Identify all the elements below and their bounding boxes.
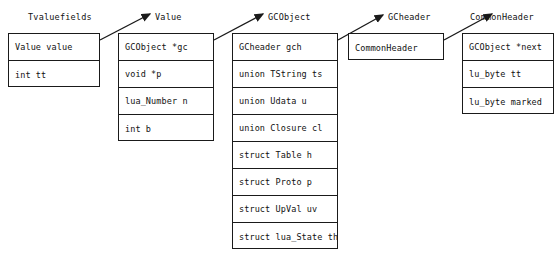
field-row: int b — [119, 115, 213, 142]
field-row: union Udata u — [233, 88, 337, 115]
struct-label-tvaluefields: Tvaluefields — [28, 12, 92, 22]
struct-label-commonheader: CommonHeader — [470, 12, 534, 22]
struct-label-gcheader: GCheader — [388, 12, 431, 22]
struct-label-gcobject: GCObject — [268, 12, 311, 22]
struct-box-tvaluefields: Value valueint tt — [8, 33, 100, 87]
struct-box-value: GCObject *gcvoid *plua_Number nint b — [118, 33, 214, 141]
field-row: void *p — [119, 61, 213, 88]
struct-box-commonheader: GCObject *nextlu_byte ttlu_byte marked — [462, 33, 554, 114]
field-row: GCheader gch — [233, 34, 337, 61]
field-row: union TString ts — [233, 61, 337, 88]
field-row: GCObject *next — [463, 34, 553, 61]
field-row: union Closure cl — [233, 115, 337, 142]
field-row: lua_Number n — [119, 88, 213, 115]
struct-box-gcobject: GCheader gchunion TString tsunion Udata … — [232, 33, 338, 249]
field-row: struct Table h — [233, 142, 337, 169]
field-row: lu_byte tt — [463, 61, 553, 88]
diagram-canvas: TvaluefieldsValue valueint ttValueGCObje… — [0, 0, 558, 260]
field-row: struct lua_State th — [233, 223, 337, 250]
field-row: lu_byte marked — [463, 88, 553, 115]
field-row: int tt — [9, 61, 99, 88]
field-row: struct Proto p — [233, 169, 337, 196]
field-row: struct UpVal uv — [233, 196, 337, 223]
field-row: CommonHeader — [349, 34, 443, 61]
field-row: GCObject *gc — [119, 34, 213, 61]
field-row: Value value — [9, 34, 99, 61]
struct-label-value: Value — [155, 12, 182, 22]
struct-box-gcheader: CommonHeader — [348, 33, 444, 60]
